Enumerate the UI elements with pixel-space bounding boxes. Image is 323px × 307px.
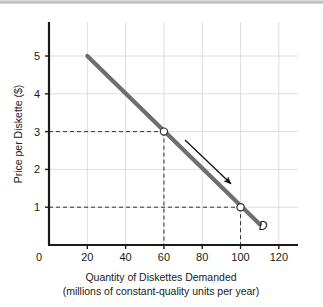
y-axis-tick-label: 1 [34, 201, 40, 213]
x-axis-tick-label: 0 [36, 251, 42, 263]
x-axis-title-sub: (millions of constant-quality units per … [63, 285, 260, 297]
demand-curve-chart: 12345020406080100120DQuantity of Diskett… [0, 0, 323, 307]
demand-curve-line [87, 56, 259, 224]
data-point-marker[interactable] [237, 204, 244, 211]
x-axis-tick-label: 100 [231, 251, 249, 263]
y-axis-tick-label: 5 [34, 50, 40, 62]
x-axis-tick-label: 40 [119, 251, 131, 263]
y-axis-title: Price per Diskette ($) [12, 85, 24, 184]
x-axis-tick-label: 80 [196, 251, 208, 263]
top-edge-band [0, 0, 323, 4]
x-axis-tick-label: 120 [270, 251, 288, 263]
shift-arrow [185, 140, 231, 184]
demand-curve-label: D [259, 219, 268, 233]
data-point-marker[interactable] [160, 128, 167, 135]
y-axis-tick-label: 3 [34, 126, 40, 138]
x-axis-title: Quantity of Diskettes Demanded [85, 271, 236, 283]
y-axis-tick-label: 2 [34, 163, 40, 175]
y-axis-tick-label: 4 [34, 88, 40, 100]
x-axis-tick-label: 60 [158, 251, 170, 263]
x-axis-tick-label: 20 [81, 251, 93, 263]
demand-curve-figure: 12345020406080100120DQuantity of Diskett… [0, 0, 323, 307]
